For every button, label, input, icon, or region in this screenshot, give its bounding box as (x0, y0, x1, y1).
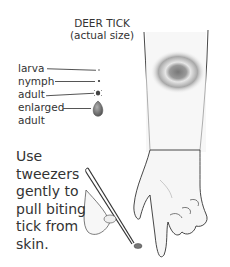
bullseye-rash (150, 50, 206, 94)
enlarged-tick-icon (93, 101, 103, 116)
larva-tick-icon (98, 69, 99, 70)
nymph-tick-icon (98, 80, 100, 82)
adult-tick-icon (94, 90, 102, 96)
instruction-line: skin. (16, 236, 86, 254)
instruction-line: pull biting (16, 201, 86, 219)
instruction-line: Use (16, 148, 86, 166)
hand-drawing (134, 150, 207, 257)
instruction-line: tweezers (16, 166, 86, 184)
tick-on-skin (134, 244, 142, 249)
instruction-line: tick from (16, 218, 86, 236)
instruction-line: gently to (16, 183, 86, 201)
instruction-text: Use tweezers gently to pull biting tick … (16, 148, 86, 253)
